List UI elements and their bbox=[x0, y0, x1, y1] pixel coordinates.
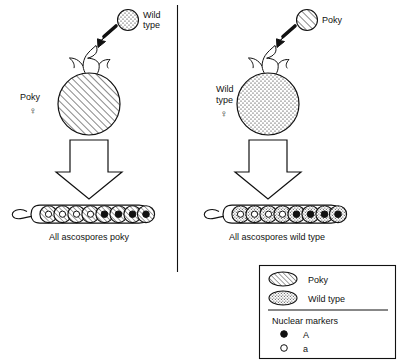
nuclear-marker-A bbox=[143, 211, 150, 218]
parent-male-label-line1: Wild bbox=[143, 10, 161, 20]
legend-label-marker-A: A bbox=[303, 330, 309, 340]
ascospore bbox=[137, 206, 154, 223]
legend-label-wild-type: Wild type bbox=[308, 294, 345, 304]
parent-female-cell-left bbox=[58, 73, 120, 135]
parent-female-label-line1: Poky bbox=[20, 92, 41, 102]
caption-right: All ascospores wild type bbox=[229, 232, 325, 242]
nuclear-marker-A bbox=[307, 211, 314, 218]
parent-male-label-line2: type bbox=[143, 20, 160, 30]
wild-type-protoperithecium bbox=[237, 73, 299, 135]
nuclear-marker-A bbox=[335, 211, 342, 218]
nuclear-marker-A bbox=[101, 211, 108, 218]
female-symbol-right: ♀ bbox=[220, 108, 228, 119]
ascus-left bbox=[12, 205, 154, 223]
ascus-right bbox=[204, 205, 346, 223]
genetics-cross-diagram: Wild type Poky bbox=[0, 0, 400, 362]
legend-markers-title: Nuclear markers bbox=[272, 316, 339, 326]
poky-protoperithecium bbox=[58, 73, 120, 135]
parent-male-label-right: Poky bbox=[322, 15, 343, 25]
parent-female-label-line1: Wild bbox=[216, 84, 234, 94]
caption-left: All ascospores poky bbox=[49, 232, 130, 242]
nuclear-marker-a bbox=[265, 211, 271, 217]
nuclear-marker-a bbox=[45, 211, 51, 217]
nuclear-marker-A bbox=[293, 211, 300, 218]
ascospore bbox=[329, 206, 346, 223]
nuclear-marker-a bbox=[87, 211, 93, 217]
wild-type-swatch-icon bbox=[269, 291, 297, 305]
nuclear-marker-a bbox=[251, 211, 257, 217]
nuclear-marker-a bbox=[73, 211, 79, 217]
nuclear-marker-a bbox=[279, 211, 285, 217]
parent-male-cell-left bbox=[118, 10, 139, 31]
parent-female-cell-right bbox=[237, 73, 299, 135]
nuclear-marker-A bbox=[321, 211, 328, 218]
wild-type-conidium bbox=[118, 10, 139, 31]
nuclear-marker-a bbox=[59, 211, 65, 217]
parent-female-label-line2: type bbox=[216, 95, 233, 105]
poky-swatch-icon bbox=[269, 272, 297, 286]
filled-dot-icon bbox=[281, 331, 288, 338]
legend: Poky Wild type Nuclear markers A a bbox=[260, 266, 396, 359]
poky-conidium bbox=[297, 10, 318, 31]
nuclear-marker-a bbox=[237, 211, 243, 217]
open-dot-icon bbox=[281, 345, 288, 352]
nuclear-marker-A bbox=[115, 211, 122, 218]
legend-label-marker-a: a bbox=[303, 344, 308, 354]
legend-label-poky: Poky bbox=[308, 275, 329, 285]
female-symbol-left: ♀ bbox=[29, 105, 37, 116]
parent-male-cell-right bbox=[297, 10, 318, 31]
figure-root: Wild type Poky bbox=[0, 0, 400, 362]
nuclear-marker-A bbox=[129, 211, 136, 218]
